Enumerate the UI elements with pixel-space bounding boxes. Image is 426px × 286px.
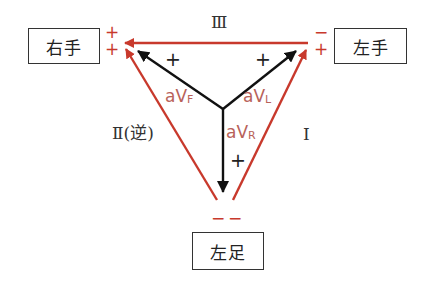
aVF-base: aV [165, 86, 187, 106]
aVR-plus-mark: + [230, 151, 246, 170]
lead-II-label: Ⅱ(逆) [112, 125, 154, 141]
aVL-sub: L [265, 93, 271, 106]
aVF-label: aVF [165, 88, 193, 107]
right-arm-label: 右手 [46, 34, 82, 59]
left-leg-polarity-right: − [228, 210, 242, 227]
left-leg-polarity-left: − [211, 210, 225, 227]
aVL-plus-mark: + [255, 50, 271, 69]
left-arm-polarity-bottom: + [314, 41, 328, 58]
left-leg-label: 左足 [210, 239, 246, 264]
left-arm-label: 左手 [353, 34, 389, 59]
aVL-label: aVL [243, 88, 271, 107]
lead-I-label: Ⅰ [303, 126, 310, 142]
aVR-base: aV [226, 122, 248, 142]
left-leg-electrode-box: 左足 [192, 232, 264, 270]
aVF-sub: F [187, 93, 193, 106]
aVL-base: aV [243, 86, 265, 106]
aVF-plus-mark: + [165, 50, 181, 69]
aVR-sub: R [248, 129, 256, 142]
right-arm-electrode-box: 右手 [28, 28, 100, 64]
left-arm-electrode-box: 左手 [334, 28, 407, 64]
right-arm-polarity-bottom: + [105, 41, 119, 58]
lead-III-label: Ⅲ [211, 14, 227, 30]
aVR-label: aVR [226, 124, 256, 143]
